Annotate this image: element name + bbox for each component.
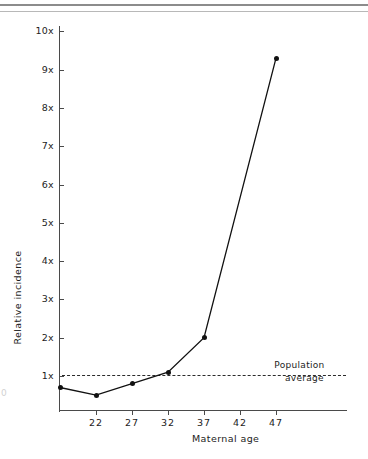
chart-page: 0 1x2x3x4x5x6x7x8x9x10x 222732374247 Rel… xyxy=(0,0,368,459)
data-point xyxy=(130,381,135,386)
data-point xyxy=(58,385,63,390)
data-point xyxy=(166,370,171,375)
data-point xyxy=(202,335,207,340)
data-point xyxy=(94,393,99,398)
data-point xyxy=(274,56,279,61)
series-polyline-layer xyxy=(0,0,368,459)
plot-area: 1x2x3x4x5x6x7x8x9x10x 222732374247 Relat… xyxy=(0,0,368,459)
series-line xyxy=(60,58,276,395)
